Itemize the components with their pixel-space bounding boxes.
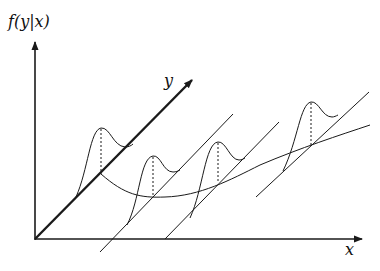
y-line-2 xyxy=(100,114,233,252)
x-axis-label: x xyxy=(345,242,354,258)
y-axis xyxy=(35,80,192,239)
regression-curve xyxy=(101,125,370,197)
y-axis-label: y xyxy=(164,73,173,89)
y-line-3 xyxy=(165,122,279,239)
diagram-svg xyxy=(0,0,380,271)
f-axis-label: f(y|x) xyxy=(8,14,50,30)
density-curve-1 xyxy=(76,128,133,197)
diagram-canvas: f(y|x) y x xyxy=(0,0,380,271)
